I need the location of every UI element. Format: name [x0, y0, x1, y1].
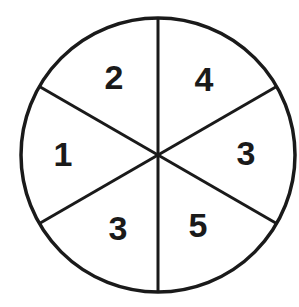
- section-label-top-left: 2: [105, 58, 124, 96]
- section-label-left: 1: [54, 135, 73, 173]
- section-label-bottom-left: 3: [109, 209, 128, 247]
- section-label-right: 3: [237, 134, 256, 172]
- section-label-top-right: 4: [195, 60, 214, 98]
- spinner-diagram: 2 4 3 5 3 1: [0, 0, 299, 307]
- section-label-bottom-right: 5: [189, 206, 208, 244]
